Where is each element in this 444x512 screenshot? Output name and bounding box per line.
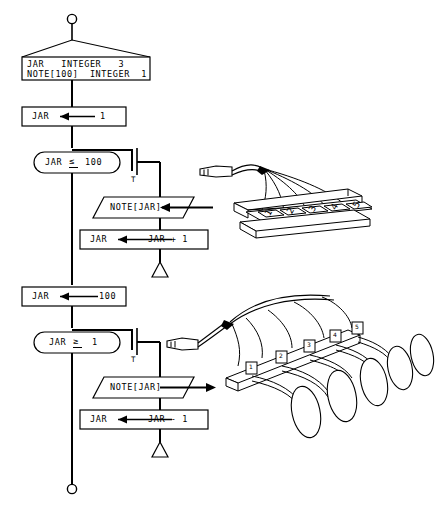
assign-init-up-value: 1 [100, 112, 106, 121]
declaration-line-2: NOTE[100] INTEGER 1 [27, 70, 147, 79]
output-plug-icon [167, 338, 198, 350]
write-note-label: NOTE[JAR] [110, 383, 161, 392]
cond-up-variable: JAR [45, 158, 62, 167]
read-note-label: NOTE[JAR] [110, 203, 161, 212]
assign-init-down-target: JAR [32, 292, 49, 301]
declaration-line-1: JAR INTEGER 3 [27, 60, 124, 69]
horn-slot-label-3: 3 [307, 342, 311, 348]
cond-up-operator: ≤ [69, 157, 75, 166]
horn-bell [287, 384, 325, 441]
input-plug-icon [200, 166, 232, 177]
horn-slot-label-4: 4 [333, 332, 337, 338]
flowchart-canvas: JAR INTEGER 3 NOTE[100] INTEGER 1 JAR 1 … [0, 0, 444, 512]
assign-init-down-value: 100 [99, 292, 116, 301]
assign-init-up-target: JAR [32, 112, 49, 121]
cond-up-true-flag: T [131, 176, 136, 184]
horn-slot-label-2: 2 [279, 353, 283, 359]
horn-slot-label-5: 5 [355, 324, 359, 330]
horn-bell [356, 356, 391, 408]
cond-down-operator: ≥ [73, 337, 79, 346]
horn-bell [323, 368, 361, 425]
input-device-illustration [200, 165, 372, 238]
declaration-roof [22, 40, 150, 57]
horn-throat [358, 337, 392, 357]
assign-increment-target: JAR [90, 235, 107, 244]
assign-decrement-expression: JAR - 1 [148, 415, 188, 424]
horn-slot-label-1: 1 [249, 364, 253, 370]
cond-down-operand: 1 [92, 338, 98, 347]
loop-down-triangle-icon [152, 442, 168, 457]
end-terminal-icon [67, 484, 76, 493]
cond-up-operand: 100 [85, 158, 102, 167]
cond-down-true-flag: T [131, 356, 136, 364]
cond-down-variable: JAR [49, 338, 66, 347]
start-terminal-icon [67, 14, 76, 23]
loop-up-triangle-icon [152, 262, 168, 277]
write-note-arrow-head [206, 383, 216, 392]
assign-increment-expression: JAR + 1 [148, 235, 188, 244]
assign-decrement-target: JAR [90, 415, 107, 424]
